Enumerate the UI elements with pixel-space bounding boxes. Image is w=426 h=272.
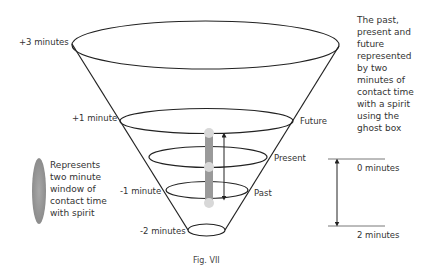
- ellipse-minus-2-minutes: [188, 224, 225, 236]
- label-future: Future: [300, 116, 327, 127]
- description-text: The past, present and future represented…: [357, 14, 414, 134]
- label-minus-2-minutes: -2 minutes: [140, 226, 186, 237]
- legend-swatch: [32, 158, 46, 224]
- window-node-bottom: [204, 198, 214, 208]
- label-present: Present: [274, 153, 306, 164]
- scale-top-label: 0 minutes: [357, 163, 400, 174]
- scale-bottom-label: 2 minutes: [357, 230, 400, 241]
- label-past: Past: [254, 188, 272, 199]
- label-minus-1-minute: -1 minute: [120, 186, 161, 197]
- legend-text: Represents two minute window of contact …: [50, 159, 107, 219]
- cone-right-side: [225, 46, 339, 230]
- label-plus-1-minute: +1 minute: [72, 113, 117, 124]
- window-node-middle: [204, 162, 214, 172]
- label-plus-3-minutes: +3 minutes: [19, 37, 69, 48]
- ellipse-plus-3-minutes: [72, 21, 339, 69]
- figure-caption: Fig. VII: [193, 256, 220, 265]
- window-node-top: [204, 128, 214, 138]
